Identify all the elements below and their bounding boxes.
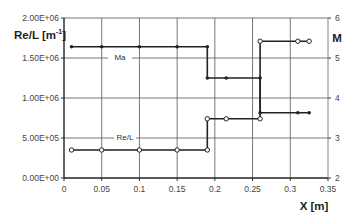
y2-tick-label: 5 xyxy=(335,53,340,63)
data-point xyxy=(258,39,262,43)
y2-tick-label: 2 xyxy=(335,173,340,183)
data-point xyxy=(175,45,179,49)
data-point xyxy=(224,76,228,80)
series-label-rel: Re/L xyxy=(117,133,134,142)
x-tick-label: 0.25 xyxy=(244,184,261,194)
x-tick-label: 0.1 xyxy=(134,184,146,194)
data-point xyxy=(206,76,210,80)
data-series: MaRe/L xyxy=(69,39,311,152)
data-point xyxy=(258,117,262,121)
x-tick-label: 0.15 xyxy=(169,184,186,194)
chart: 00.050.10.150.20.250.30.35 0.00E+005.00E… xyxy=(0,0,351,220)
x-tick-label: 0.2 xyxy=(209,184,221,194)
y2-tick-label: 6 xyxy=(335,13,340,23)
x-axis-title: X [m] xyxy=(300,200,329,212)
data-point xyxy=(70,45,74,49)
y-tick-label: 5.00E+05 xyxy=(22,133,59,143)
data-point xyxy=(307,111,311,115)
data-point xyxy=(296,39,300,43)
series-ma xyxy=(70,45,311,115)
y-tick-label: 1.50E+06 xyxy=(22,53,59,63)
x-tick-label: 0.05 xyxy=(93,184,110,194)
data-point xyxy=(137,148,141,152)
x-tick-label: 0 xyxy=(62,184,67,194)
y-tick-label: 2.00E+06 xyxy=(22,13,59,23)
data-point xyxy=(307,39,311,43)
y-tick-label: 0.00E+00 xyxy=(22,173,59,183)
data-point xyxy=(296,111,300,115)
series-label-ma: Ma xyxy=(114,53,126,62)
y2-tick-label: 3 xyxy=(335,133,340,143)
series-rel xyxy=(69,39,311,152)
data-point xyxy=(69,148,73,152)
data-point xyxy=(224,117,228,121)
data-point xyxy=(100,45,104,49)
data-point xyxy=(100,148,104,152)
y2-tick-label: 4 xyxy=(335,93,340,103)
x-tick-label: 0.35 xyxy=(320,184,337,194)
data-point xyxy=(205,117,209,121)
data-point xyxy=(138,45,142,49)
y-tick-label: 1.00E+06 xyxy=(22,93,59,103)
x-axis-ticks: 00.050.10.150.20.250.30.35 xyxy=(62,184,337,194)
x-tick-label: 0.3 xyxy=(284,184,296,194)
data-point xyxy=(175,148,179,152)
data-point xyxy=(206,45,210,49)
data-point xyxy=(205,148,209,152)
y2-axis-title: M xyxy=(332,32,342,44)
y-axis-title: Re/L [m-1] xyxy=(14,28,66,41)
